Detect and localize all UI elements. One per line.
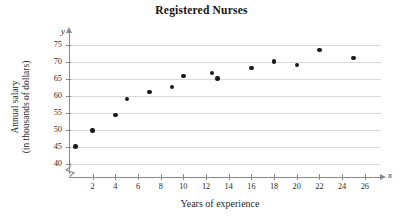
y-axis-tick xyxy=(66,45,71,46)
x-axis-label: Years of experience xyxy=(70,198,370,209)
x-axis-tick xyxy=(251,174,252,180)
gridline xyxy=(70,164,381,165)
y-axis-tick xyxy=(66,79,71,80)
data-point xyxy=(113,113,117,117)
x-axis-tick-label: 18 xyxy=(264,182,284,191)
data-point xyxy=(125,97,129,101)
x-axis-tick-label: 2 xyxy=(83,182,103,191)
x-axis-arrow-icon xyxy=(380,174,386,180)
data-point xyxy=(351,56,355,60)
x-axis-tick xyxy=(297,174,298,180)
x-axis-tick-label: 20 xyxy=(287,182,307,191)
x-axis-tick xyxy=(319,174,320,180)
y-axis-tick-label: 65 xyxy=(44,74,62,83)
data-point xyxy=(90,128,94,132)
y-axis-tick xyxy=(66,147,71,148)
x-axis-tick xyxy=(274,174,275,180)
y-axis-tick-label: 75 xyxy=(44,40,62,49)
y-axis-tick-label: 40 xyxy=(44,159,62,168)
y-axis-tick-label: 55 xyxy=(44,108,62,117)
x-axis-tick xyxy=(161,174,162,180)
data-point xyxy=(73,144,77,148)
plot-area xyxy=(70,38,388,174)
data-point xyxy=(147,90,151,94)
gridline xyxy=(70,96,381,97)
gridline xyxy=(70,79,381,80)
data-point xyxy=(249,66,253,70)
x-axis-tick xyxy=(342,174,343,180)
data-point xyxy=(317,48,321,52)
y-axis-arrow-icon xyxy=(66,27,72,33)
gridline xyxy=(70,62,381,63)
y-axis-variable-symbol: y xyxy=(61,26,65,36)
y-axis-label: Annual salary (in thousands of dollars) xyxy=(10,42,32,172)
y-axis-label-line1: Annual salary xyxy=(10,80,20,133)
x-axis-tick-label: 4 xyxy=(105,182,125,191)
chart-title: Registered Nurses xyxy=(0,4,403,16)
x-axis-tick xyxy=(183,174,184,180)
x-axis-tick-label: 10 xyxy=(173,182,193,191)
scatter-plot-figure: Registered Nurses y x Years of experienc… xyxy=(0,0,403,221)
data-point xyxy=(210,71,214,75)
x-axis-tick-label: 6 xyxy=(128,182,148,191)
x-axis-tick-label: 8 xyxy=(151,182,171,191)
x-axis-variable-symbol: x xyxy=(388,170,392,180)
y-axis-tick xyxy=(66,96,71,97)
x-axis-tick-label: 26 xyxy=(355,182,375,191)
x-axis-tick xyxy=(138,174,139,180)
y-axis-line xyxy=(69,32,70,174)
x-axis-tick-label: 22 xyxy=(309,182,329,191)
x-axis-tick-label: 14 xyxy=(219,182,239,191)
x-axis-tick xyxy=(206,174,207,180)
x-axis-tick xyxy=(115,174,116,180)
y-axis-tick-label: 70 xyxy=(44,57,62,66)
data-point xyxy=(215,76,219,80)
x-axis-tick-label: 16 xyxy=(241,182,261,191)
x-axis-tick xyxy=(229,174,230,180)
y-axis-label-line2: (in thousands of dollars) xyxy=(21,42,32,172)
y-axis-tick xyxy=(66,62,71,63)
y-axis-tick-label: 45 xyxy=(44,142,62,151)
y-axis-tick-label: 60 xyxy=(44,91,62,100)
y-axis-break-icon xyxy=(64,163,76,177)
gridline xyxy=(70,45,381,46)
y-axis-tick xyxy=(66,164,71,165)
x-axis-tick xyxy=(365,174,366,180)
y-axis-tick xyxy=(66,113,71,114)
y-axis-tick-label: 50 xyxy=(44,125,62,134)
y-axis-tick xyxy=(66,130,71,131)
x-axis-tick-label: 12 xyxy=(196,182,216,191)
gridline xyxy=(70,130,381,131)
x-axis-tick xyxy=(93,174,94,180)
gridline xyxy=(70,147,381,148)
x-axis-tick-label: 24 xyxy=(332,182,352,191)
data-point xyxy=(272,59,276,63)
